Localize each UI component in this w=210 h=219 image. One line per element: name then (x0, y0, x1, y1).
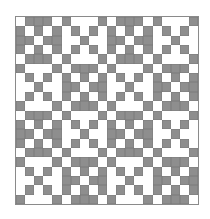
empty-cell (171, 26, 180, 35)
filled-cell (171, 185, 180, 194)
empty-cell (162, 111, 171, 120)
empty-cell (180, 17, 189, 26)
filled-cell (189, 176, 198, 185)
filled-cell (153, 92, 162, 101)
filled-cell (116, 148, 125, 157)
filled-cell (180, 64, 189, 73)
empty-cell (62, 101, 71, 110)
empty-cell (89, 167, 98, 176)
empty-cell (162, 148, 171, 157)
filled-cell (34, 120, 43, 129)
filled-cell (143, 139, 152, 148)
empty-cell (107, 167, 116, 176)
empty-cell (62, 139, 71, 148)
filled-cell (180, 176, 189, 185)
filled-cell (189, 82, 198, 91)
filled-cell (43, 36, 52, 45)
filled-cell (43, 129, 52, 138)
filled-cell (125, 45, 134, 54)
filled-cell (107, 36, 116, 45)
empty-cell (34, 64, 43, 73)
filled-cell (16, 101, 25, 110)
filled-cell (107, 64, 116, 73)
filled-cell (189, 148, 198, 157)
empty-cell (25, 45, 34, 54)
filled-cell (125, 111, 134, 120)
empty-cell (125, 185, 134, 194)
empty-cell (125, 157, 134, 166)
filled-cell (162, 101, 171, 110)
empty-cell (25, 26, 34, 35)
empty-cell (52, 176, 61, 185)
filled-cell (162, 64, 171, 73)
filled-cell (134, 73, 143, 82)
empty-cell (180, 36, 189, 45)
empty-cell (89, 73, 98, 82)
empty-cell (52, 17, 61, 26)
empty-cell (189, 195, 198, 204)
empty-cell (80, 26, 89, 35)
empty-cell (162, 167, 171, 176)
empty-cell (25, 120, 34, 129)
filled-cell (171, 64, 180, 73)
empty-cell (25, 176, 34, 185)
filled-cell (189, 92, 198, 101)
filled-cell (98, 176, 107, 185)
filled-cell (153, 167, 162, 176)
filled-cell (134, 54, 143, 63)
filled-cell (134, 92, 143, 101)
filled-cell (143, 120, 152, 129)
filled-cell (71, 139, 80, 148)
empty-cell (25, 139, 34, 148)
empty-cell (171, 54, 180, 63)
filled-cell (52, 120, 61, 129)
empty-cell (71, 73, 80, 82)
empty-cell (98, 120, 107, 129)
empty-cell (80, 82, 89, 91)
filled-cell (62, 185, 71, 194)
filled-cell (16, 139, 25, 148)
empty-cell (189, 36, 198, 45)
filled-cell (25, 17, 34, 26)
empty-cell (89, 148, 98, 157)
filled-cell (107, 157, 116, 166)
filled-cell (34, 148, 43, 157)
empty-cell (189, 26, 198, 35)
filled-cell (62, 73, 71, 82)
empty-cell (62, 26, 71, 35)
filled-cell (43, 17, 52, 26)
empty-cell (134, 26, 143, 35)
filled-cell (125, 54, 134, 63)
empty-cell (189, 157, 198, 166)
empty-cell (16, 111, 25, 120)
empty-cell (52, 92, 61, 101)
filled-cell (107, 195, 116, 204)
filled-cell (180, 157, 189, 166)
empty-cell (80, 176, 89, 185)
empty-cell (162, 36, 171, 45)
filled-cell (162, 82, 171, 91)
empty-cell (125, 64, 134, 73)
filled-cell (162, 176, 171, 185)
empty-cell (143, 176, 152, 185)
filled-cell (71, 26, 80, 35)
empty-cell (80, 148, 89, 157)
filled-cell (43, 185, 52, 194)
filled-cell (80, 64, 89, 73)
filled-cell (171, 167, 180, 176)
filled-cell (16, 26, 25, 35)
filled-cell (71, 120, 80, 129)
filled-cell (189, 185, 198, 194)
empty-cell (62, 36, 71, 45)
empty-cell (143, 111, 152, 120)
filled-cell (116, 185, 125, 194)
filled-cell (180, 120, 189, 129)
filled-cell (52, 26, 61, 35)
empty-cell (16, 176, 25, 185)
filled-cell (116, 92, 125, 101)
empty-cell (107, 111, 116, 120)
filled-cell (16, 45, 25, 54)
filled-cell (89, 101, 98, 110)
empty-cell (180, 148, 189, 157)
filled-cell (189, 54, 198, 63)
